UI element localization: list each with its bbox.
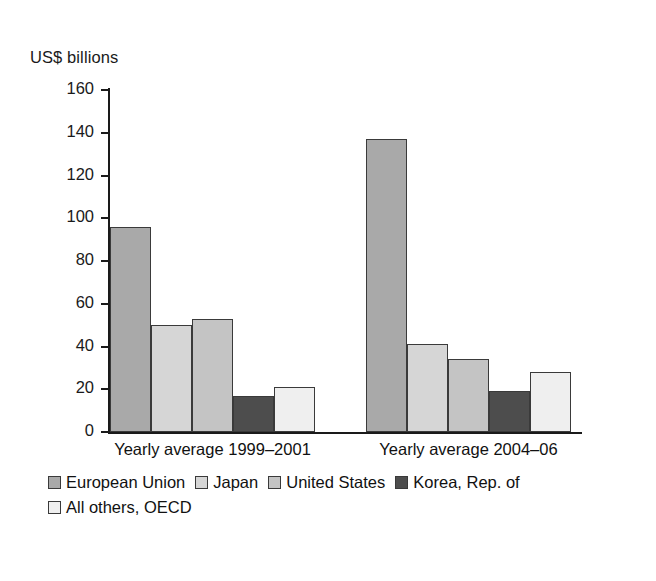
y-axis-tick-label: 80	[76, 250, 94, 269]
legend-row: All others, OECD	[48, 495, 648, 520]
bar	[407, 344, 448, 432]
legend-swatch-icon	[395, 476, 408, 489]
plot-area: 020406080100120140160	[110, 90, 580, 432]
chart-legend: European UnionJapanUnited StatesKorea, R…	[48, 470, 648, 520]
y-axis-tick: 120	[101, 175, 110, 177]
legend-label: United States	[286, 470, 385, 495]
legend-item[interactable]: Japan	[195, 470, 258, 495]
y-axis-tick: 60	[101, 303, 110, 305]
legend-item[interactable]: Korea, Rep. of	[395, 470, 519, 495]
y-axis-tick-label: 120	[66, 165, 94, 184]
legend-label: European Union	[66, 470, 185, 495]
legend-item[interactable]: United States	[268, 470, 385, 495]
bar	[530, 372, 571, 432]
y-axis-tick: 20	[101, 388, 110, 390]
bar	[366, 139, 407, 432]
legend-label: All others, OECD	[66, 495, 192, 520]
y-axis-tick: 0	[101, 431, 110, 433]
bar	[233, 396, 274, 432]
y-axis-tick: 40	[101, 346, 110, 348]
legend-swatch-icon	[48, 501, 61, 514]
legend-row: European UnionJapanUnited StatesKorea, R…	[48, 470, 648, 495]
legend-swatch-icon	[268, 476, 281, 489]
legend-item[interactable]: All others, OECD	[48, 495, 192, 520]
x-axis-group-label: Yearly average 2004–06	[309, 440, 629, 459]
bar	[151, 325, 192, 432]
y-axis-tick-label: 160	[66, 79, 94, 98]
legend-swatch-icon	[48, 476, 61, 489]
y-axis-tick-label: 100	[66, 207, 94, 226]
y-axis-tick-label: 60	[76, 293, 94, 312]
y-axis-tick-label: 20	[76, 378, 94, 397]
y-axis-tick-label: 140	[66, 122, 94, 141]
legend-item[interactable]: European Union	[48, 470, 185, 495]
y-axis-tick: 140	[101, 132, 110, 134]
bar-chart: US$ billions 020406080100120140160 Yearl…	[0, 0, 656, 581]
legend-label: Japan	[213, 470, 258, 495]
bar	[448, 359, 489, 432]
bar	[110, 227, 151, 432]
x-axis-line	[108, 432, 582, 434]
y-axis-tick: 80	[101, 260, 110, 262]
y-axis-title: US$ billions	[30, 48, 118, 67]
bar	[274, 387, 315, 432]
bar	[489, 391, 530, 432]
bar	[192, 319, 233, 432]
legend-swatch-icon	[195, 476, 208, 489]
y-axis-tick-label: 0	[85, 421, 94, 440]
legend-label: Korea, Rep. of	[413, 470, 519, 495]
y-axis-tick: 100	[101, 217, 110, 219]
y-axis-tick: 160	[101, 89, 110, 91]
y-axis-tick-label: 40	[76, 336, 94, 355]
